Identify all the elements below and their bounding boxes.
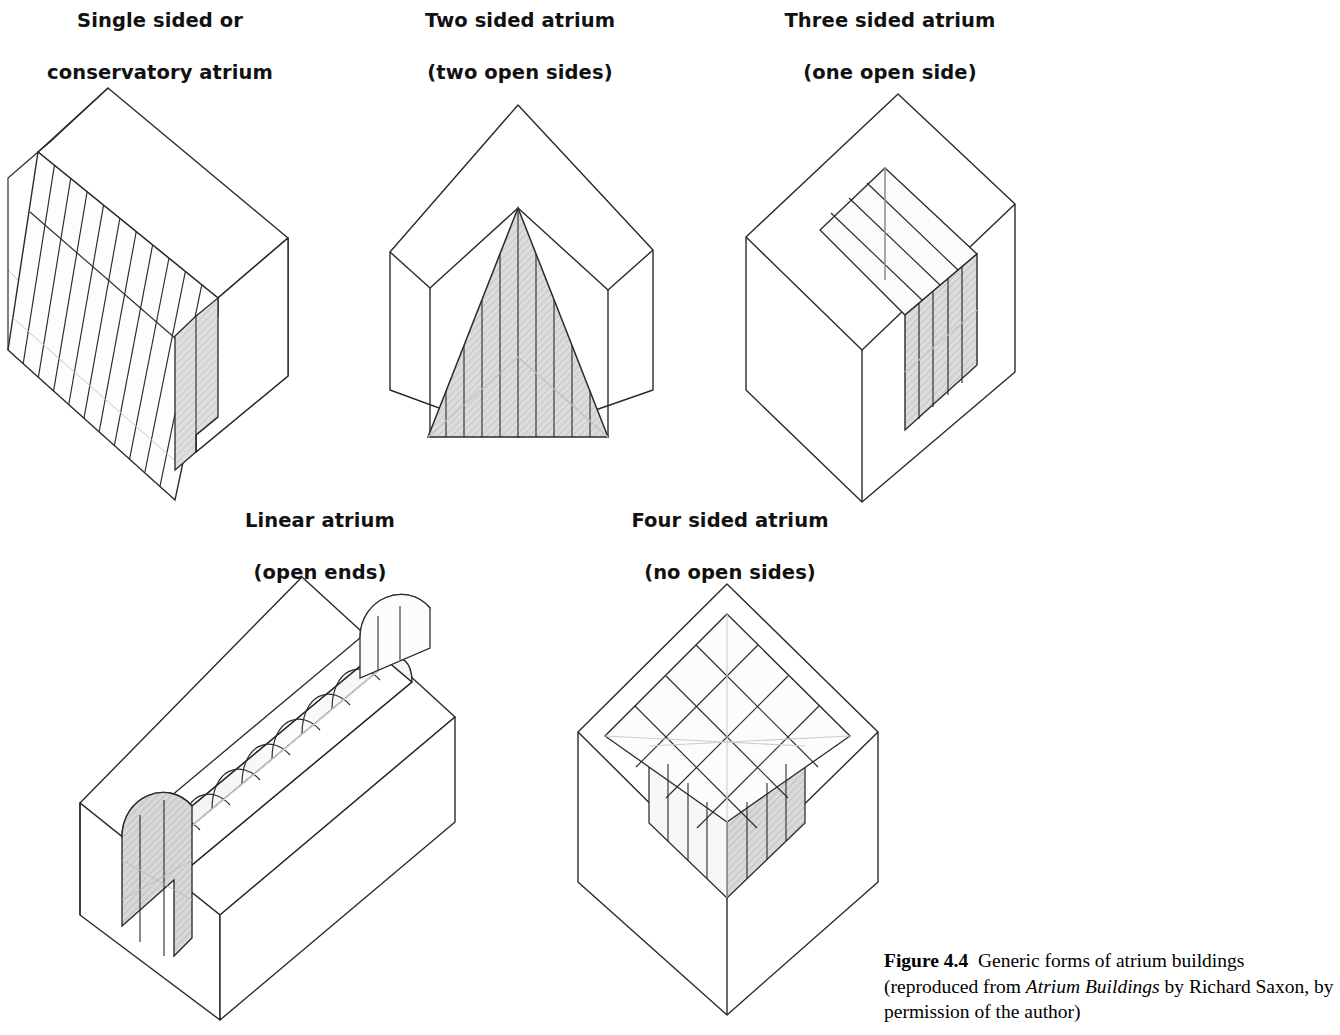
figure-source-title: Atrium Buildings xyxy=(1026,976,1160,997)
figure-caption: Figure 4.4 Generic forms of atrium build… xyxy=(884,948,1336,1025)
figure-title: Generic forms of atrium buildings xyxy=(978,950,1244,971)
figure-source-prefix: (reproduced from xyxy=(884,976,1026,997)
diagram-four-sided-atrium xyxy=(560,570,900,1020)
label-two-sided-line1: Two sided atrium xyxy=(425,9,615,32)
label-three-sided-line1: Three sided atrium xyxy=(784,9,995,32)
diagram-two-sided-atrium xyxy=(380,90,670,460)
label-linear-line1: Linear atrium xyxy=(245,509,395,532)
label-single-sided-line1: Single sided or xyxy=(77,9,243,32)
figure-atrium-forms: Single sided or conservatory atrium Two … xyxy=(0,0,1340,1035)
diagram-single-sided-atrium xyxy=(0,80,310,500)
diagram-three-sided-atrium xyxy=(730,82,1060,512)
diagram-linear-atrium xyxy=(60,560,490,1020)
label-two-sided-line2: (two open sides) xyxy=(427,61,612,84)
figure-number: Figure 4.4 xyxy=(884,950,968,971)
label-four-sided-line1: Four sided atrium xyxy=(631,509,828,532)
label-three-sided-line2: (one open side) xyxy=(803,61,976,84)
